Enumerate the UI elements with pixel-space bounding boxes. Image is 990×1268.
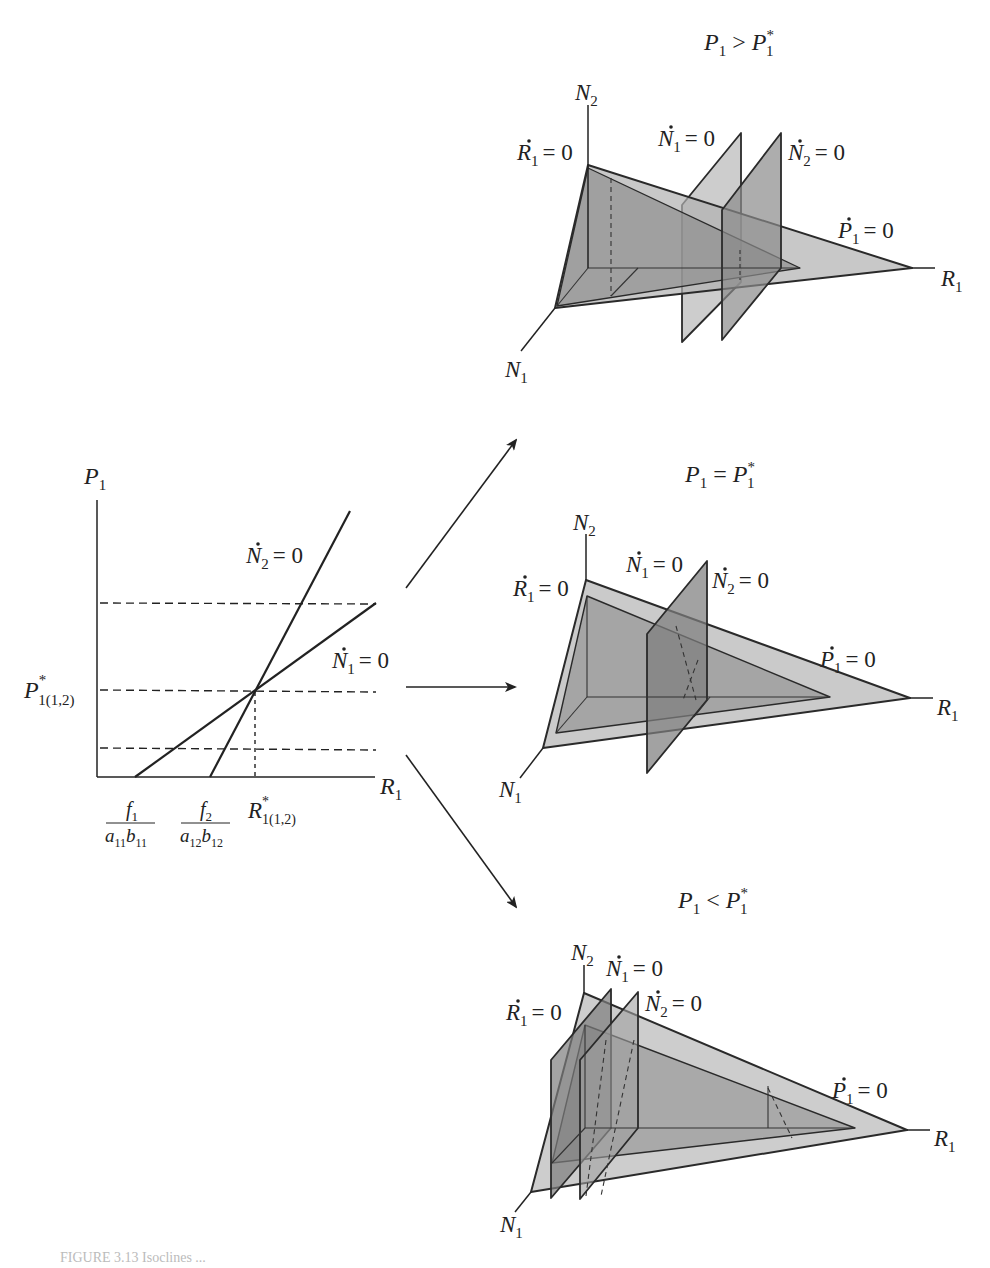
figure-caption: FIGURE 3.13 Isoclines ... xyxy=(60,1250,206,1266)
p1-star-tick-label: P*1(1,2) xyxy=(23,672,74,709)
f2-tick-denominator: a12b12 xyxy=(180,825,223,850)
p1-axis-label: P1 xyxy=(83,463,106,493)
n1-isocline-label: N1= 0 xyxy=(331,648,389,677)
r1-axis-label: R1 xyxy=(933,1126,956,1155)
n2-axis-label: N2 xyxy=(570,940,594,969)
n1-axis-label: N1 xyxy=(504,357,528,386)
panel-p1-greater: P1>P*1 N2 R1 N1 R1= 0 N1= 0 N2= 0 P1= 0 xyxy=(504,27,963,386)
left-isocline-chart xyxy=(97,500,376,777)
n1-dot-accent xyxy=(617,955,621,959)
n1-axis-label: N1 xyxy=(499,1212,523,1241)
n1-axis xyxy=(520,748,543,778)
r1-dot-label: R1= 0 xyxy=(505,1000,562,1029)
n2-axis-label: N2 xyxy=(572,510,596,539)
n1-dot-label: N1= 0 xyxy=(605,956,663,985)
n1-dot-label: N1= 0 xyxy=(657,126,715,155)
transition-arrows xyxy=(406,440,516,907)
n1-dot-accent xyxy=(669,125,673,129)
p1-dot-label: P1= 0 xyxy=(837,218,894,247)
p1-dot-label: P1= 0 xyxy=(831,1078,888,1107)
r1-dot-label: R1= 0 xyxy=(512,576,569,605)
panel-title: P1<P*1 xyxy=(677,885,748,917)
n2-dot-accent xyxy=(256,542,260,546)
n2-dot-label: N2= 0 xyxy=(644,991,702,1020)
panel-title: P1>P*1 xyxy=(703,27,774,59)
figure-canvas: P1 R1 N2= 0 N1= 0 P*1(1,2) f1 a11b11 f2 … xyxy=(0,0,990,1268)
r1-axis-label: R1 xyxy=(940,266,963,295)
n2-dot-label: N2= 0 xyxy=(787,140,845,169)
f2-tick-numerator: f2 xyxy=(200,798,212,824)
p1-dot-accent xyxy=(830,646,834,650)
n1-dot-label: N1= 0 xyxy=(625,552,683,581)
n1-dot-accent xyxy=(637,551,641,555)
n2-dot-accent xyxy=(723,567,727,571)
n1-axis xyxy=(521,308,555,351)
r1-dot-accent xyxy=(523,575,527,579)
n2-isocline-label: N2= 0 xyxy=(245,543,303,572)
dashed-high xyxy=(100,603,376,604)
n2-dot-label: N2= 0 xyxy=(711,568,769,597)
panel-title: P1=P*1 xyxy=(684,459,755,491)
r1-dot-accent xyxy=(527,139,531,143)
p1-dot-label: P1= 0 xyxy=(819,647,876,676)
p1-dot-accent xyxy=(847,217,851,221)
n1-dot-accent xyxy=(342,647,346,651)
r1-dot-label: R1= 0 xyxy=(516,140,573,169)
n2-dot-accent xyxy=(656,990,660,994)
f1-tick-numerator: f1 xyxy=(126,798,138,824)
n2-dot-accent xyxy=(798,139,802,143)
r1-axis-label: R1 xyxy=(379,773,402,803)
dashed-low xyxy=(100,748,376,750)
p1-dot-accent xyxy=(842,1077,846,1081)
n1-axis xyxy=(515,1192,531,1212)
r1-axis-label: R1 xyxy=(936,695,959,724)
panel-p1-equal: P1=P*1 N2 R1 N1 R1= 0 N1= 0 N2= 0 P1= 0 xyxy=(498,459,959,806)
r1-star-tick-label: R*1(1,2) xyxy=(247,794,296,828)
n1-n2-dot-plane xyxy=(647,561,707,773)
panel-p1-less: P1<P*1 N2 R1 N1 R1= 0 N1= 0 N2= 0 P1= 0 xyxy=(499,885,956,1241)
arrow-to-top-panel xyxy=(406,440,516,588)
f1-tick-denominator: a11b11 xyxy=(105,825,147,850)
dashed-equilibrium xyxy=(100,690,376,692)
n2-axis-label: N2 xyxy=(574,80,598,109)
n1-axis-label: N1 xyxy=(498,777,522,806)
r1-dot-accent xyxy=(516,999,520,1003)
